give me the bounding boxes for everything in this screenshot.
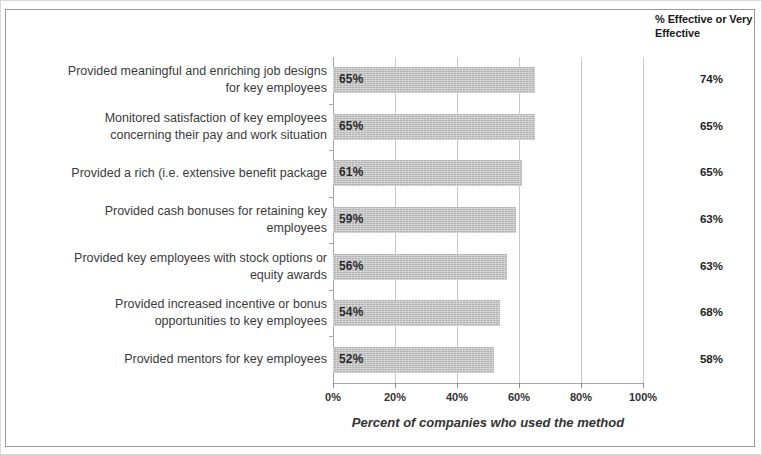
category-label-line: Provided increased incentive or bonus <box>12 296 327 313</box>
effective-value: 65% <box>655 166 723 178</box>
x-axis-tick <box>643 383 644 388</box>
category-label: Provided key employees with stock option… <box>12 250 327 284</box>
x-axis-tick <box>457 383 458 388</box>
bar-data-label: 65% <box>339 119 364 133</box>
category-axis-tick <box>329 104 333 105</box>
category-label-line: for key employees <box>12 80 327 97</box>
bar-data-label: 59% <box>339 212 364 226</box>
category-axis-tick <box>329 336 333 337</box>
chart-page: % Effective or Very Effective Provided m… <box>0 0 762 455</box>
category-label-line: concerning their pay and work situation <box>12 127 327 144</box>
effective-value: 74% <box>655 73 723 85</box>
category-label-line: Provided mentors for key employees <box>12 351 327 368</box>
x-axis-tick-label: 100% <box>621 391 665 403</box>
category-axis-line <box>333 383 643 384</box>
category-label: Provided mentors for key employees <box>12 351 327 368</box>
x-axis-tick-label: 20% <box>373 391 417 403</box>
x-axis-tick-label: 0% <box>311 391 355 403</box>
effective-value-group: 74%65%65%63%63%68%58% <box>655 57 755 383</box>
effective-value: 65% <box>655 120 723 132</box>
category-axis-tick <box>329 150 333 151</box>
effective-value: 68% <box>655 306 723 318</box>
bar-data-label: 65% <box>339 72 364 86</box>
bar-data-label: 52% <box>339 352 364 366</box>
category-label-line: Provided cash bonuses for retaining key <box>12 203 327 220</box>
plot-area: 0%20%40%60%80%100%65%65%61%59%56%54%52% <box>333 57 643 383</box>
bar-data-label: 56% <box>339 259 364 273</box>
x-axis-tick-label: 80% <box>559 391 603 403</box>
effective-value: 63% <box>655 260 723 272</box>
effective-value: 58% <box>655 353 723 365</box>
category-axis-tick <box>329 243 333 244</box>
category-label-group: Provided meaningful and enriching job de… <box>12 57 327 383</box>
category-label-line: opportunities to key employees <box>12 313 327 330</box>
bar-row[interactable]: 61% <box>333 160 643 186</box>
category-axis-tick <box>329 290 333 291</box>
category-label-line: Monitored satisfaction of key employees <box>12 110 327 127</box>
category-label-line: employees <box>12 220 327 237</box>
bar-row[interactable]: 65% <box>333 67 643 93</box>
x-axis-tick <box>581 383 582 388</box>
category-label: Provided meaningful and enriching job de… <box>12 63 327 97</box>
effective-value: 63% <box>655 213 723 225</box>
category-label-line: equity awards <box>12 267 327 284</box>
bar-data-label: 61% <box>339 165 364 179</box>
category-label: Monitored satisfaction of key employeesc… <box>12 110 327 144</box>
effective-column-header: % Effective or Very Effective <box>655 12 755 40</box>
x-axis-title: Percent of companies who used the method <box>333 415 643 430</box>
x-axis-tick <box>519 383 520 388</box>
bar-data-label: 54% <box>339 305 364 319</box>
gridline <box>643 57 644 383</box>
bar-row[interactable]: 59% <box>333 207 643 233</box>
category-axis-tick <box>329 197 333 198</box>
x-axis-tick <box>395 383 396 388</box>
category-label-line: Provided key employees with stock option… <box>12 250 327 267</box>
bar-row[interactable]: 56% <box>333 254 643 280</box>
bar-row[interactable]: 65% <box>333 114 643 140</box>
bar-row[interactable]: 54% <box>333 300 643 326</box>
bar-row[interactable]: 52% <box>333 347 643 373</box>
x-axis-tick <box>333 383 334 388</box>
x-axis-tick-label: 40% <box>435 391 479 403</box>
category-label: Provided a rich (i.e. extensive benefit … <box>12 165 327 182</box>
category-label-line: Provided a rich (i.e. extensive benefit … <box>12 165 327 182</box>
category-label: Provided cash bonuses for retaining keye… <box>12 203 327 237</box>
category-label: Provided increased incentive or bonusopp… <box>12 296 327 330</box>
category-label-line: Provided meaningful and enriching job de… <box>12 63 327 80</box>
x-axis-tick-label: 60% <box>497 391 541 403</box>
